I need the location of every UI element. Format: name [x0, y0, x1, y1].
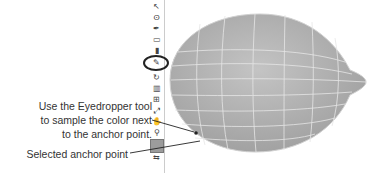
anchor-leader-line: [130, 141, 200, 153]
selected-anchor-point[interactable]: [194, 131, 198, 135]
lemon-artwork: [0, 0, 379, 173]
